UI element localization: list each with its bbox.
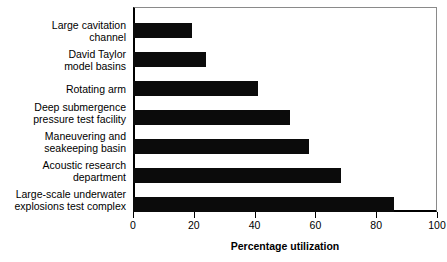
x-axis-tick-mark (255, 212, 256, 218)
x-axis-tick-marks (133, 212, 437, 219)
bar-deep-submergence-pressure-test (133, 110, 290, 125)
category-label: David Taylor model basins (0, 48, 126, 73)
bar-maneuvering-seakeeping-basin (133, 139, 309, 154)
x-axis-tick-label: 20 (188, 219, 200, 232)
category-label: Acoustic research department (0, 159, 126, 184)
x-axis-tick-mark (376, 212, 377, 218)
x-axis-tick-label: 100 (428, 219, 446, 232)
x-axis-tick-labels: 020406080100 (0, 219, 447, 235)
x-axis-tick-mark (133, 212, 134, 218)
category-label: Deep submergence pressure test facility (0, 101, 126, 126)
x-axis-tick-label: 60 (310, 219, 322, 232)
category-labels-axis: Large cavitation channel David Taylor mo… (0, 7, 130, 212)
bar-large-cavitation-channel (133, 23, 192, 38)
bar-david-taylor-model-basins (133, 52, 206, 67)
x-axis-tick-mark (437, 212, 438, 218)
bar-large-scale-underwater-explosions (133, 197, 394, 212)
x-axis-tick-label: 40 (249, 219, 261, 232)
x-axis-tick-label: 80 (370, 219, 382, 232)
x-axis-tick-mark (315, 212, 316, 218)
bars-layer (133, 7, 437, 212)
category-label: Maneuvering and seakeeping basin (0, 130, 126, 155)
x-axis-tick-mark (194, 212, 195, 218)
category-label: Large-scale underwater explosions test c… (0, 188, 126, 213)
bar-rotating-arm (133, 81, 258, 96)
bar-acoustic-research-department (133, 168, 341, 183)
category-label: Large cavitation channel (0, 19, 126, 44)
category-label: Rotating arm (0, 83, 126, 95)
x-axis-title: Percentage utilization (133, 240, 437, 252)
bar-chart-figure: Large cavitation channel David Taylor mo… (0, 0, 447, 262)
x-axis-tick-label: 0 (130, 219, 136, 232)
